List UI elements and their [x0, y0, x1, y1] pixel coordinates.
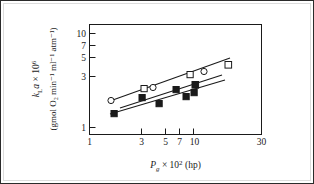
y-axis-title-line2: (gmol O₂ min⁻¹ ml⁻¹ atm⁻¹)	[48, 27, 58, 130]
data-point	[187, 72, 193, 78]
y-title-units: (gmol O₂ min⁻¹ ml⁻¹ atm⁻¹)	[48, 27, 58, 130]
x-axis-title: Pg × 102 (hp)	[149, 159, 201, 173]
data-point	[139, 95, 145, 101]
x-tick-5: 5	[163, 137, 168, 147]
svg-text:kLa × 106: kLa × 106	[30, 60, 44, 97]
data-point	[192, 82, 199, 89]
y-title-rest: × 10	[31, 64, 41, 84]
data-point	[183, 94, 189, 100]
y-tick-3: 3	[81, 72, 86, 82]
data-point	[201, 68, 207, 74]
chart-plot: 10 7 5 3 1 1 3 5 7 10 30	[1, 1, 314, 184]
plot-area-box	[90, 25, 262, 135]
data-point	[156, 101, 162, 107]
x-title-unit: (hp)	[183, 160, 201, 171]
y-axis-tick-labels: 10 7 5 3 1	[77, 29, 87, 133]
x-tick-30: 30	[257, 137, 267, 147]
y-tick-5: 5	[81, 53, 86, 63]
data-point	[191, 90, 197, 96]
y-tick-7: 7	[81, 41, 86, 51]
x-axis-tick-labels: 1 3 5 7 10 30	[87, 137, 266, 147]
y-tick-10: 10	[77, 29, 87, 39]
x-tick-3: 3	[139, 137, 144, 147]
data-point	[108, 97, 114, 103]
data-point	[173, 87, 179, 93]
x-tick-7: 7	[177, 137, 182, 147]
y-axis-title-line1: kLa × 106	[30, 60, 44, 97]
y-title-exponent: 6	[30, 60, 38, 64]
x-title-rest: × 10	[160, 160, 180, 170]
x-tick-10: 10	[190, 137, 200, 147]
data-point	[111, 111, 117, 117]
x-tick-1: 1	[87, 137, 92, 147]
data-point	[141, 86, 147, 92]
data-point	[225, 62, 232, 69]
figure-frame: 10 7 5 3 1 1 3 5 7 10 30	[0, 0, 314, 184]
y-tick-1: 1	[81, 123, 86, 133]
data-point	[150, 84, 156, 90]
svg-text:Pg × 102 (hp): Pg × 102 (hp)	[149, 159, 201, 173]
